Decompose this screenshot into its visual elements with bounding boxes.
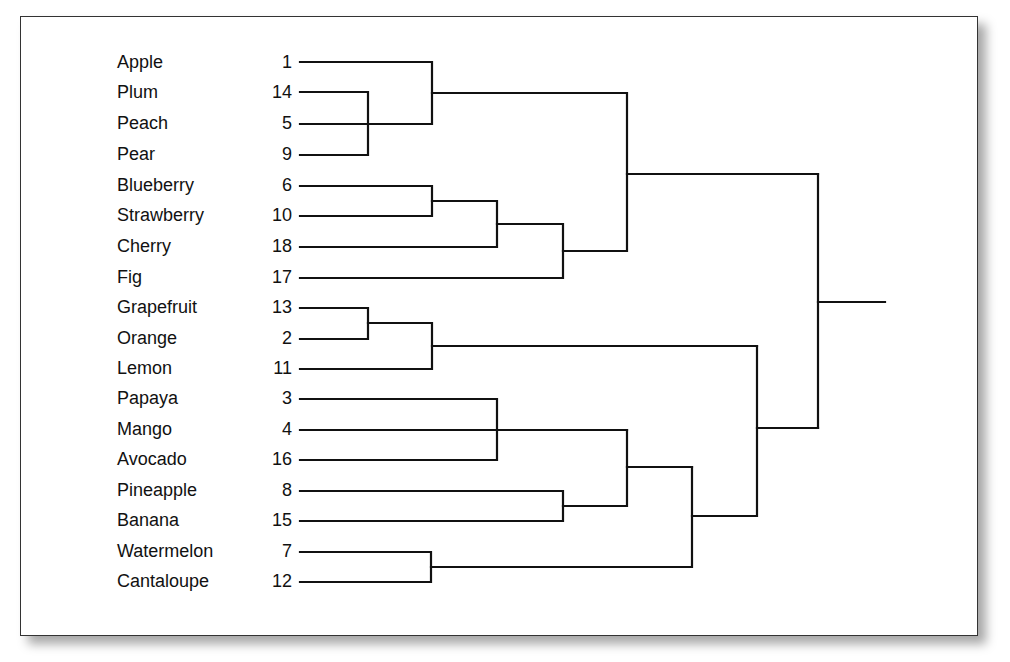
branch	[432, 93, 627, 251]
branch	[300, 308, 368, 339]
branch	[563, 430, 627, 506]
branch	[300, 201, 497, 247]
branch	[431, 467, 692, 567]
dendrogram-lines	[0, 0, 1010, 662]
branch	[300, 186, 432, 216]
branch	[692, 346, 757, 516]
branch	[300, 224, 563, 278]
branch	[300, 552, 431, 582]
branch	[300, 323, 432, 369]
branch	[300, 491, 563, 521]
